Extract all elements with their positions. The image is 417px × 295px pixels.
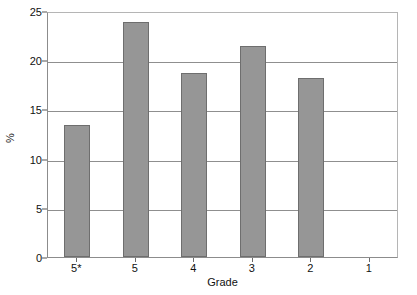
x-tick-label: 2	[290, 263, 330, 274]
x-tick-label: 5	[115, 263, 155, 274]
bar	[240, 46, 266, 257]
x-tick-label: 4	[173, 263, 213, 274]
y-axis-title-text: %	[4, 133, 16, 143]
bars-layer	[48, 13, 397, 257]
x-tick-label: 5*	[56, 263, 96, 274]
y-axis-ticks: 0510152025	[18, 0, 42, 295]
bar-chart: % 0510152025 5*54321 Grade	[0, 0, 417, 295]
y-tick-label: 15	[18, 105, 42, 116]
y-tick-label: 10	[18, 154, 42, 165]
bar	[181, 73, 207, 257]
bar	[298, 78, 324, 257]
y-tick-label: 20	[18, 56, 42, 67]
x-tick-label: 1	[349, 263, 389, 274]
plot-area	[47, 12, 398, 258]
y-tick-label: 0	[18, 253, 42, 264]
bar	[64, 125, 90, 257]
y-tick-label: 5	[18, 203, 42, 214]
y-tick-label: 25	[18, 7, 42, 18]
bar	[123, 22, 149, 257]
y-axis-title: %	[0, 118, 20, 158]
x-tick-label: 3	[232, 263, 272, 274]
x-axis-title: Grade	[47, 276, 398, 288]
